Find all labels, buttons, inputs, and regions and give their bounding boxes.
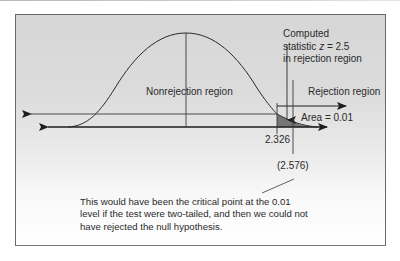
computed-line-2: statistic z = 2.5 — [283, 41, 362, 54]
critical-value-label-2576: (2.576) — [277, 160, 309, 173]
caption-note: This would have been the critical point … — [80, 196, 308, 233]
caption-pointer-line — [262, 179, 294, 193]
caption-line-2: level if the test were two-tailed, and t… — [80, 208, 308, 220]
computed-statistic-annotation: Computed statistic z = 2.5 in rejection … — [283, 28, 362, 66]
computed-line-1: Computed — [283, 28, 362, 41]
area-label: Area = 0.01 — [301, 112, 353, 125]
computed-line-2-prefix: statistic — [283, 41, 319, 52]
critical-value-label-2326: 2.326 — [265, 134, 290, 147]
computed-line-2-value: = 2.5 — [324, 41, 349, 52]
computed-line-3: in rejection region — [283, 53, 362, 66]
normal-curve — [68, 33, 318, 127]
caption-line-1: This would have been the critical point … — [80, 196, 308, 208]
nonrejection-region-label: Nonrejection region — [146, 86, 233, 99]
caption-line-3: have rejected the null hypothesis. — [80, 221, 308, 233]
rejection-region-label: Rejection region — [308, 86, 380, 99]
